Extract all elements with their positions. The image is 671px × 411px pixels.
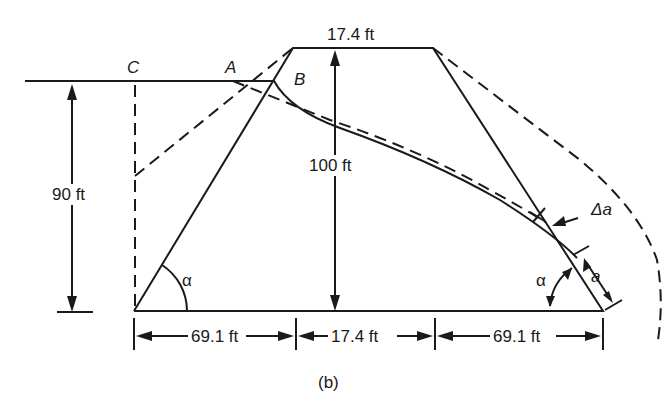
delta-a-label: Δa bbox=[591, 201, 612, 218]
a-label: a bbox=[591, 268, 600, 285]
dam-height-label: 100 ft bbox=[309, 155, 352, 176]
base-right-label: 69.1 ft bbox=[493, 328, 540, 345]
basic-parabola-dashed bbox=[135, 48, 293, 176]
angle-left-label: α bbox=[182, 272, 192, 289]
dam-outline bbox=[134, 48, 603, 311]
point-a-label: A bbox=[225, 59, 236, 76]
crest-width-label: 17.4 ft bbox=[327, 26, 374, 43]
water-depth-label: 90 ft bbox=[52, 184, 85, 205]
base-middle-label: 17.4 ft bbox=[331, 328, 378, 345]
dam-seepage-diagram bbox=[0, 0, 671, 411]
base-left-label: 69.1 ft bbox=[191, 328, 238, 345]
basic-parabola-inner bbox=[233, 81, 545, 222]
point-c-label: C bbox=[127, 59, 139, 76]
point-b-label: B bbox=[294, 71, 305, 88]
angle-right-label: α bbox=[536, 272, 546, 289]
figure-caption: (b) bbox=[318, 374, 339, 391]
